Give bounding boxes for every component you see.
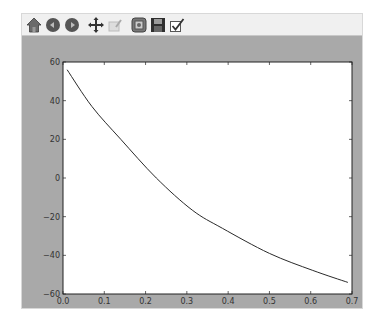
subplots-button[interactable] (130, 16, 147, 33)
home-button[interactable] (25, 16, 42, 33)
pan-button[interactable] (87, 16, 104, 33)
home-icon (26, 17, 42, 33)
y-tick-label: −60 (43, 290, 60, 299)
line-chart: 0.00.10.20.30.40.50.60.76040200−20−40−60 (22, 36, 362, 308)
y-tick-label: −40 (43, 251, 60, 260)
back-button[interactable] (44, 16, 61, 33)
x-tick-label: 0.5 (263, 297, 276, 306)
figure-window: 0.00.10.20.30.40.50.60.76040200−20−40−60 (21, 13, 363, 309)
y-tick-label: 60 (50, 58, 60, 67)
subplots-config-icon (131, 17, 147, 33)
checkbox-edit-icon (169, 17, 185, 33)
edit-button[interactable] (168, 16, 185, 33)
forward-button[interactable] (63, 16, 80, 33)
x-tick-label: 0.2 (139, 297, 152, 306)
y-tick-label: 20 (50, 135, 60, 144)
x-tick-label: 0.3 (180, 297, 193, 306)
y-tick-label: −20 (43, 213, 60, 222)
x-tick-label: 0.4 (222, 297, 235, 306)
figure-canvas[interactable]: 0.00.10.20.30.40.50.60.76040200−20−40−60 (22, 36, 362, 308)
x-tick-label: 0.6 (304, 297, 317, 306)
forward-arrow-icon (64, 17, 80, 33)
navigation-toolbar (22, 14, 362, 36)
save-button[interactable] (149, 16, 166, 33)
plot-area (63, 62, 352, 294)
floppy-save-icon (150, 17, 166, 33)
zoom-button[interactable] (106, 16, 123, 33)
y-tick-label: 40 (50, 97, 60, 106)
x-tick-label: 0.7 (346, 297, 359, 306)
zoom-rect-icon (107, 17, 123, 33)
y-tick-label: 0 (55, 174, 60, 183)
x-tick-label: 0.1 (98, 297, 111, 306)
move-icon (88, 17, 104, 33)
back-arrow-icon (45, 17, 61, 33)
